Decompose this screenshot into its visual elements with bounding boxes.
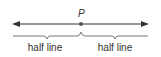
point-label: P [78,8,85,19]
line-diagram: P half line half line [0,0,161,57]
right-brace [81,32,148,39]
left-brace [13,32,81,39]
left-arrowhead-icon [12,21,20,27]
right-half-line-label: half line [98,42,133,53]
right-arrowhead-icon [141,21,149,27]
point-p [79,22,83,26]
left-half-line-label: half line [28,42,63,53]
